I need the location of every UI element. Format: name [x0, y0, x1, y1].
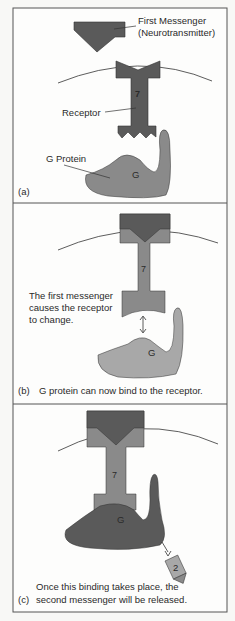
g-label: G — [148, 347, 155, 358]
receptor-number: 7 — [135, 89, 140, 99]
receptor-number: 7 — [112, 470, 117, 480]
note-line-1: The first messenger — [29, 290, 113, 301]
receptor-label: Receptor — [62, 107, 101, 118]
first-messenger-label: First Messenger — [138, 15, 206, 26]
g-label: G — [117, 514, 124, 525]
panel-label-a: (a) — [18, 186, 30, 197]
panel-c-caption-line-2: second messenger will be released. — [36, 594, 187, 605]
g-protein-label: G Protein — [46, 153, 86, 164]
panel-b-caption: G protein can now bind to the receptor. — [39, 385, 203, 396]
neurotransmitter-label: (Neurotransmitter) — [138, 27, 215, 38]
panel-c-caption-line-1: Once this binding takes place, the — [36, 581, 179, 592]
second-messenger-label: 2 — [173, 562, 178, 573]
g-label: G — [132, 169, 139, 180]
figure-diagram: First Messenger (Neurotransmitter) 7 Rec… — [0, 0, 235, 621]
note-line-3: to change. — [29, 314, 73, 325]
receptor-number: 7 — [141, 264, 146, 274]
panel-label-b: (b) — [18, 385, 30, 396]
note-line-2: causes the receptor — [29, 302, 112, 313]
panel-label-c: (c) — [18, 594, 29, 605]
